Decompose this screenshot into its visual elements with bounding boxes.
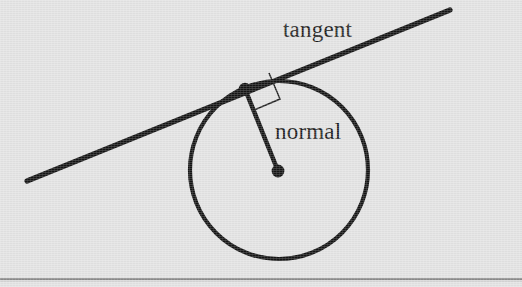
figure-canvas: tangent normal: [0, 0, 522, 287]
tangent-label: tangent: [283, 17, 353, 42]
normal-label: normal: [275, 119, 341, 144]
tangency-point-dot: [239, 83, 251, 95]
figure-background: [0, 0, 522, 287]
geometry-figure: tangent normal: [0, 0, 522, 287]
circle-center-dot: [272, 165, 285, 178]
